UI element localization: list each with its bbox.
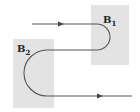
trajectory-path [0,0,140,112]
arrow-bottom-icon [97,94,103,99]
arrow-top-icon [58,22,64,27]
